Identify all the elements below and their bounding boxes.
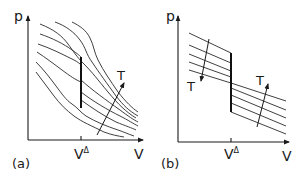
t-label-a: T xyxy=(116,68,125,83)
t-label-left-b: T xyxy=(186,79,195,94)
t-label-right-b: T xyxy=(255,73,264,88)
temperature-arrow-left-b: T xyxy=(186,39,209,94)
isotherm-lines-b xyxy=(189,33,286,134)
x-axis-label-b: V xyxy=(282,148,292,164)
isotherm-left-segment xyxy=(189,33,231,53)
t-arrow-right-b xyxy=(257,84,268,127)
v-delta-label-b: VΔ xyxy=(224,146,240,162)
isotherm-left-segment xyxy=(189,45,231,63)
isotherm-curve xyxy=(55,22,138,116)
v-delta-label-a: VΔ xyxy=(74,146,90,162)
panel-b: T T p V VΔ (b) xyxy=(161,8,292,171)
panel-label-a: (a) xyxy=(12,156,30,171)
panel-a: T p V VΔ (a) xyxy=(12,8,144,171)
y-axis-label-a: p xyxy=(14,8,23,24)
isotherm-left-segment xyxy=(189,70,231,83)
pv-diagram-figure: T p V VΔ (a) xyxy=(0,0,302,181)
y-axis-label-b: p xyxy=(166,8,175,24)
x-axis-label-a: V xyxy=(134,146,144,162)
isotherm-curve xyxy=(37,52,136,130)
panel-a-axes xyxy=(28,16,143,140)
panel-label-b: (b) xyxy=(161,156,179,171)
isotherm-left-segment xyxy=(189,54,231,71)
isotherm-left-segment xyxy=(189,62,231,77)
